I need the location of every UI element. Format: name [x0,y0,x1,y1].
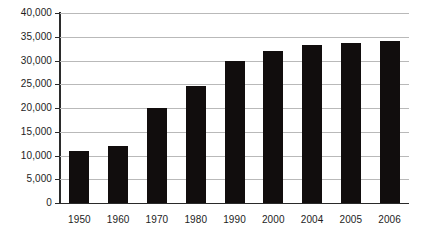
x-axis-label: 2006 [368,214,412,226]
y-axis-label: 30,000 [0,56,52,66]
x-axis-label: 1960 [96,214,140,226]
x-axis-label: 2005 [329,214,373,226]
bars-layer [60,13,409,203]
y-axis-label: 40,000 [0,8,52,18]
y-axis-label: 35,000 [0,32,52,42]
bar-chart: 05,00010,00015,00020,00025,00030,00035,0… [0,0,428,241]
bar [186,86,206,203]
y-axis-label: 10,000 [0,151,52,161]
bar [225,61,245,203]
bar [263,51,283,203]
bar [380,41,400,203]
x-axis-tick-labels: 195019601970198019902000200420052006 [60,214,409,230]
bar [147,108,167,203]
bar [302,45,322,203]
bar [108,146,128,203]
y-axis-label: 15,000 [0,127,52,137]
x-axis-label: 1950 [57,214,101,226]
y-axis-label: 20,000 [0,103,52,113]
bar [341,43,361,203]
y-axis-label: 0 [0,198,52,208]
x-axis-label: 2000 [251,214,295,226]
y-axis-tick-labels: 05,00010,00015,00020,00025,00030,00035,0… [0,0,52,241]
plot-area [60,13,409,203]
x-axis-label: 2004 [290,214,334,226]
y-axis-label: 5,000 [0,174,52,184]
x-axis-label: 1970 [135,214,179,226]
x-axis-label: 1980 [174,214,218,226]
y-axis-label: 25,000 [0,79,52,89]
axis-baseline [60,203,409,204]
bar [69,151,89,203]
x-axis-label: 1990 [213,214,257,226]
